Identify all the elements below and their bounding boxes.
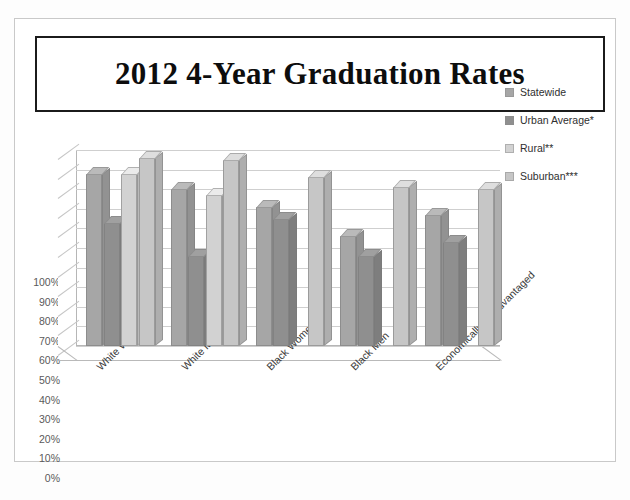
bar-side	[409, 181, 417, 346]
bar-face	[256, 207, 272, 346]
y-axis-tick-label: 90%	[14, 296, 60, 308]
bar-face	[121, 174, 137, 346]
bar-side	[155, 152, 163, 346]
bar-face	[273, 219, 289, 346]
bar	[171, 189, 187, 346]
bar-face	[223, 160, 239, 346]
bar-face	[340, 236, 356, 346]
bar-face	[358, 256, 374, 346]
legend-item: Urban Average*	[505, 114, 617, 126]
bar	[273, 219, 289, 346]
bar-face	[171, 189, 187, 346]
bar	[121, 174, 137, 346]
y-axis: 0%10%20%30%40%50%60%70%80%90%100%	[14, 268, 60, 464]
bar	[443, 242, 459, 346]
bar-side	[374, 250, 382, 346]
bar-side	[289, 212, 297, 346]
y-axis-tick-label: 10%	[14, 452, 60, 464]
legend-item-label: Urban Average*	[520, 114, 594, 126]
plot-area	[76, 150, 500, 346]
bar-face	[86, 174, 102, 346]
legend-item-label: Suburban***	[520, 170, 578, 182]
legend-item: Statewide	[505, 86, 617, 98]
y-axis-tick-label: 80%	[14, 315, 60, 327]
legend-item-label: Rural**	[520, 142, 553, 154]
y-axis-tick-label: 0%	[14, 472, 60, 484]
bar	[223, 160, 239, 346]
bar	[393, 187, 409, 346]
y-axis-tick-label: 40%	[14, 394, 60, 406]
bar	[139, 158, 155, 346]
bar	[188, 256, 204, 346]
legend-swatch-icon	[505, 144, 514, 153]
chart-side-wall	[58, 150, 76, 346]
chart-legend: StatewideUrban Average*Rural**Suburban**…	[505, 86, 617, 198]
bar	[358, 256, 374, 346]
bar-side	[324, 171, 332, 346]
y-axis-tick-label: 60%	[14, 354, 60, 366]
bar-face	[308, 177, 324, 346]
bar	[256, 207, 272, 346]
bar-face	[425, 215, 441, 346]
scanned-page: 2012 4-Year Graduation Rates 0%10%20%30%…	[0, 0, 630, 500]
legend-swatch-icon	[505, 172, 514, 181]
bar	[206, 195, 222, 346]
y-axis-tick-label: 70%	[14, 335, 60, 347]
legend-item: Suburban***	[505, 170, 617, 182]
bar-side	[459, 236, 467, 346]
y-axis-tick-label: 100%	[14, 276, 60, 288]
bar-face	[393, 187, 409, 346]
bar-face	[104, 223, 120, 346]
bar-face	[206, 195, 222, 346]
bar-face	[478, 189, 494, 346]
bar	[308, 177, 324, 346]
page-title: 2012 4-Year Graduation Rates	[115, 56, 525, 92]
legend-swatch-icon	[505, 116, 514, 125]
y-axis-tick-label: 20%	[14, 433, 60, 445]
legend-item: Rural**	[505, 142, 617, 154]
bar-face	[188, 256, 204, 346]
gridline	[76, 150, 500, 151]
bar	[104, 223, 120, 346]
y-axis-tick-label: 30%	[14, 413, 60, 425]
legend-swatch-icon	[505, 88, 514, 97]
bar	[340, 236, 356, 346]
legend-item-label: Statewide	[520, 86, 566, 98]
y-axis-tick-label: 50%	[14, 374, 60, 386]
bar-face	[443, 242, 459, 346]
bar-side	[494, 183, 502, 346]
bar	[478, 189, 494, 346]
bar-side	[239, 154, 247, 346]
bar	[425, 215, 441, 346]
bar	[86, 174, 102, 346]
bar-face	[139, 158, 155, 346]
